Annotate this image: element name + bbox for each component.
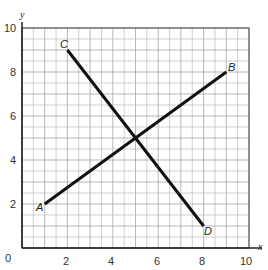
y-tick-8: 8 [10, 66, 16, 78]
y-axis-label: y [19, 9, 25, 20]
point-b-label: B [228, 61, 235, 73]
y-tick-6: 6 [10, 110, 16, 122]
point-c-label: C [60, 38, 68, 50]
y-tick-4: 4 [10, 154, 16, 166]
x-tick-4: 4 [108, 255, 114, 267]
y-tick-10: 10 [4, 22, 16, 34]
x-tick-10: 10 [240, 255, 252, 267]
x-axis-label: x [257, 241, 263, 252]
x-tick-6: 6 [154, 255, 160, 267]
origin-label: 0 [5, 252, 11, 264]
point-a-label: A [35, 201, 43, 213]
coordinate-grid-chart: 0 2 4 6 8 10 x 2 4 6 8 10 y A B C D [0, 0, 268, 270]
x-tick-8: 8 [199, 255, 205, 267]
point-d-label: D [204, 225, 212, 237]
y-tick-2: 2 [10, 198, 16, 210]
x-tick-2: 2 [63, 255, 69, 267]
